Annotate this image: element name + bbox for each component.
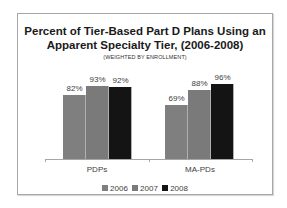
legend: 2006 2007 2008 — [18, 184, 272, 193]
data-label: 69% — [162, 94, 192, 103]
legend-item-2006: 2006 — [102, 184, 128, 193]
legend-item-2008: 2008 — [162, 184, 188, 193]
legend-swatch-2007 — [132, 185, 138, 191]
bar-ma-pds-2006 — [165, 105, 188, 159]
category-label-ma-pds: MA-PDs — [170, 165, 230, 174]
legend-item-2007: 2007 — [132, 184, 158, 193]
bar-pdps-2006 — [63, 95, 86, 159]
bar-pdps-2007 — [86, 86, 109, 159]
category-label-pdps: PDPs — [67, 165, 127, 174]
bar-ma-pds-2007 — [188, 90, 211, 159]
data-label: 96% — [208, 73, 238, 82]
bar-pdps-2008 — [109, 87, 132, 159]
chart-title: Percent of Tier-Based Part D Plans Using… — [18, 24, 272, 52]
x-axis-tick — [252, 159, 253, 162]
chart-frame: Percent of Tier-Based Part D Plans Using… — [17, 13, 273, 195]
chart-title-line-2: Apparent Specialty Tier, (2006-2008) — [18, 38, 272, 52]
data-label: 82% — [60, 84, 90, 93]
chart-subtitle: (WEIGHTED BY ENROLLMENT) — [18, 54, 272, 60]
x-axis-tick — [149, 159, 150, 162]
chart-title-line-1: Percent of Tier-Based Part D Plans Using… — [18, 24, 272, 38]
bar-ma-pds-2008 — [211, 84, 234, 159]
x-axis-tick — [45, 159, 46, 162]
data-label: 92% — [106, 76, 136, 85]
legend-swatch-2006 — [102, 185, 108, 191]
legend-swatch-2008 — [162, 185, 168, 191]
